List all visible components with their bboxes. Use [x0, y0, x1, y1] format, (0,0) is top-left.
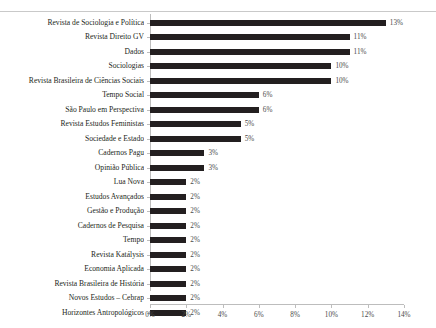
category-axis-tick — [147, 182, 150, 183]
category-axis-tick — [147, 298, 150, 299]
value-axis-tick — [186, 305, 187, 308]
value-axis-tick — [404, 305, 405, 308]
bar — [150, 34, 350, 40]
value-axis-tick-label: 10% — [316, 310, 346, 320]
bar-value-label: 2% — [190, 233, 200, 247]
value-axis-tick-label: 0% — [135, 310, 165, 320]
bar-row: Gestão e Produção2% — [0, 204, 436, 218]
category-axis-tick — [147, 124, 150, 125]
category-label: Cadernos Pagu — [0, 146, 144, 160]
bar-row: Economia Aplicada2% — [0, 262, 436, 276]
value-axis-tick-label: 14% — [389, 310, 419, 320]
bar — [150, 107, 259, 113]
bar-row: Revista Brasileira de Ciências Sociais10… — [0, 74, 436, 88]
category-axis-tick — [147, 81, 150, 82]
bar-value-label: 13% — [390, 16, 403, 30]
bar-row: Dados11% — [0, 45, 436, 59]
category-label: Sociedade e Estado — [0, 132, 144, 146]
category-axis-tick — [147, 37, 150, 38]
bar-value-label: 10% — [335, 74, 348, 88]
bar — [150, 194, 186, 200]
category-label: Gestão e Produção — [0, 204, 144, 218]
bar — [150, 49, 350, 55]
bar — [150, 78, 331, 84]
bar-row: Revista Katálysis2% — [0, 248, 436, 262]
value-axis-tick-label: 6% — [244, 310, 274, 320]
category-axis-tick — [147, 23, 150, 24]
bar-row: Tempo Social6% — [0, 88, 436, 102]
category-label: Tempo — [0, 233, 144, 247]
category-label: Revista Estudos Feministas — [0, 117, 144, 131]
category-label: Revista Katálysis — [0, 248, 144, 262]
bar — [150, 20, 386, 26]
bar-value-label: 3% — [208, 146, 218, 160]
bar — [150, 92, 259, 98]
value-axis-tick — [150, 305, 151, 308]
bar-value-label: 5% — [245, 132, 255, 146]
bar-value-label: 10% — [335, 59, 348, 73]
category-axis-tick — [147, 168, 150, 169]
category-axis-tick — [147, 52, 150, 53]
bar — [150, 266, 186, 272]
bar-row: Novos Estudos – Cebrap2% — [0, 291, 436, 305]
category-label: Tempo Social — [0, 88, 144, 102]
category-label: Lua Nova — [0, 175, 144, 189]
category-label: Revista Brasileira de Ciências Sociais — [0, 74, 144, 88]
value-axis-tick-label: 12% — [353, 310, 383, 320]
bar-row: Revista Direito GV11% — [0, 30, 436, 44]
bar — [150, 150, 204, 156]
bar-row: Cadernos de Pesquisa2% — [0, 219, 436, 233]
bar — [150, 165, 204, 171]
bar-value-label: 2% — [190, 190, 200, 204]
bar — [150, 223, 186, 229]
bar-value-label: 2% — [190, 262, 200, 276]
bar-row: Revista de Sociologia e Política13% — [0, 16, 436, 30]
cropped-title-remnant — [0, 0, 436, 8]
bar-row: Lua Nova2% — [0, 175, 436, 189]
value-axis-tick — [331, 305, 332, 308]
bar-value-label: 2% — [190, 291, 200, 305]
category-axis-tick — [147, 95, 150, 96]
bar — [150, 136, 241, 142]
bar — [150, 121, 241, 127]
value-axis-tick-label: 2% — [171, 310, 201, 320]
value-axis-tick — [223, 305, 224, 308]
category-label: Estudos Avançados — [0, 190, 144, 204]
value-axis-tick-label: 4% — [208, 310, 238, 320]
category-axis-tick — [147, 284, 150, 285]
bar-row: Opinião Pública3% — [0, 161, 436, 175]
bar — [150, 208, 186, 214]
value-axis-tick — [295, 305, 296, 308]
value-axis-tick — [368, 305, 369, 308]
category-axis-tick — [147, 269, 150, 270]
bar — [150, 281, 186, 287]
category-label: Opinião Pública — [0, 161, 144, 175]
category-label: Dados — [0, 45, 144, 59]
header-divider — [0, 11, 436, 12]
value-axis-tick-label: 8% — [280, 310, 310, 320]
category-label: Horizontes Antropológicos — [0, 306, 144, 320]
category-axis-tick — [147, 66, 150, 67]
bar-row: São Paulo em Perspectiva6% — [0, 103, 436, 117]
bar-row: Sociedade e Estado5% — [0, 132, 436, 146]
bar-value-label: 3% — [208, 161, 218, 175]
bar-chart: Revista de Sociologia e Política13%Revis… — [0, 0, 436, 328]
category-axis-tick — [147, 139, 150, 140]
category-axis-tick — [147, 211, 150, 212]
bar-value-label: 2% — [190, 204, 200, 218]
category-label: Revista Direito GV — [0, 30, 144, 44]
bar — [150, 252, 186, 258]
category-axis-tick — [147, 153, 150, 154]
bar-value-label: 11% — [354, 45, 367, 59]
category-axis-tick — [147, 110, 150, 111]
bar-value-label: 6% — [263, 103, 273, 117]
value-axis-tick — [259, 305, 260, 308]
bar-row: Cadernos Pagu3% — [0, 146, 436, 160]
bar-row: Tempo2% — [0, 233, 436, 247]
category-axis-tick — [147, 240, 150, 241]
category-axis-tick — [147, 255, 150, 256]
bar-value-label: 5% — [245, 117, 255, 131]
bar — [150, 63, 331, 69]
bar-row: Revista Brasileira de História2% — [0, 277, 436, 291]
category-axis-tick — [147, 226, 150, 227]
